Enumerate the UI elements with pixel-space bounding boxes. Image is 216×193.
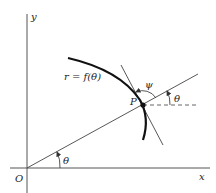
polar-tangent-diagram: y x O r = f(θ) P ψ θ θ (0, 0, 216, 193)
theta-angle-arc-at-p (167, 91, 170, 105)
theta-label-at-p: θ (174, 93, 180, 104)
x-axis-label: x (199, 171, 205, 182)
y-axis-label: y (30, 11, 37, 22)
psi-label: ψ (145, 79, 153, 90)
origin-label: O (15, 173, 23, 184)
theta-label-at-origin: θ (63, 155, 69, 166)
curve-label: r = f(θ) (64, 71, 101, 82)
theta-angle-arc-at-origin (57, 152, 60, 168)
point-label: P (129, 96, 137, 107)
point-p (140, 102, 145, 107)
radius-line (27, 74, 198, 168)
